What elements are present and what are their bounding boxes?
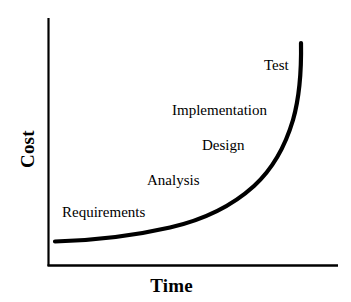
chart-plot-area (0, 0, 351, 302)
x-axis-title: Time (0, 275, 347, 297)
cost-vs-time-chart: Cost Time Requirements Analysis Design I… (0, 0, 351, 302)
curve-label-requirements: Requirements (62, 205, 145, 220)
curve-label-design: Design (202, 138, 245, 153)
y-axis-title: Cost (17, 130, 39, 168)
curve-label-test: Test (264, 58, 289, 73)
curve-label-implementation: Implementation (172, 103, 267, 118)
curve-label-analysis: Analysis (147, 173, 200, 188)
